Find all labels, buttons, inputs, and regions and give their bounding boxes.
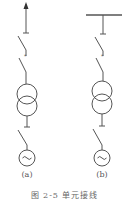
circuit-breaker-icon — [19, 58, 26, 72]
figure-caption: 图 2-5 单元接线 — [0, 189, 129, 199]
switch-icon — [18, 130, 27, 145]
svg-text:*: * — [101, 53, 104, 59]
transformer-icon — [17, 84, 37, 116]
panel-a-label: (a) — [12, 170, 42, 179]
switch-icon — [93, 129, 102, 145]
svg-text:*: * — [24, 53, 27, 59]
panel-a: * — [17, 2, 37, 166]
disconnect-switch-icon — [18, 36, 26, 50]
disconnect-switch-icon — [95, 37, 103, 51]
panel-b-label: (b) — [87, 170, 117, 179]
arrow-up-icon — [24, 2, 29, 9]
generator-icon — [94, 150, 110, 166]
transformer-icon — [92, 81, 112, 114]
panel-b: * — [86, 15, 122, 166]
circuit-breaker-icon — [96, 58, 103, 72]
generator-icon — [19, 150, 35, 166]
